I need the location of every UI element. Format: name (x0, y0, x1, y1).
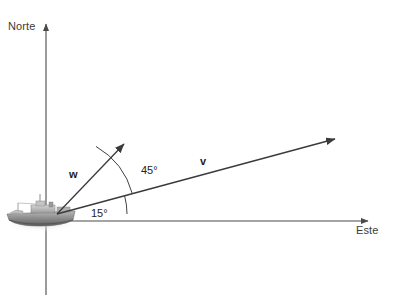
axes-group (46, 24, 368, 295)
vector-diagram-svg (0, 0, 393, 302)
vector-w (57, 144, 124, 214)
vector-label-v: v (200, 155, 206, 167)
ship-bridge (36, 201, 45, 206)
angle-label-45-degrees: 45° (141, 164, 158, 176)
axis-label-norte: Norte (8, 20, 35, 32)
ship-bow-detail (10, 210, 23, 214)
ship-rigging-line (18, 203, 36, 204)
vector-v (57, 139, 335, 214)
vector-label-w: w (69, 168, 78, 180)
angle-label-15-degrees: 15° (91, 207, 108, 219)
arc-15-degrees (125, 196, 127, 214)
axis-label-este: Este (356, 224, 378, 236)
vector-diagram-canvas: Norte Este 45° 15° w v (0, 0, 393, 302)
vectors-group (57, 139, 335, 214)
ship-icon (3, 194, 79, 232)
angle-arcs-group (96, 146, 132, 214)
ship-funnel (49, 202, 53, 207)
